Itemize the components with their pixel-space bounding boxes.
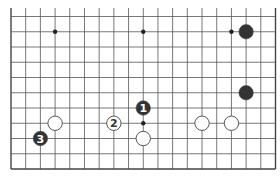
stone-disc (48, 116, 62, 130)
black-stone-3: 3 (33, 131, 47, 145)
black-stone-1: 1 (136, 101, 150, 115)
white-stone (48, 116, 62, 130)
stone-disc (195, 116, 209, 130)
black-stone (239, 25, 253, 39)
stone-disc (239, 86, 253, 100)
star-point (141, 30, 145, 34)
move-number: 2 (110, 117, 118, 130)
move-number: 1 (139, 102, 147, 115)
white-stone (195, 116, 209, 130)
go-board-diagram: 123 (0, 0, 280, 179)
white-stone (136, 131, 150, 145)
white-stone (224, 116, 238, 130)
stone-disc (224, 116, 238, 130)
black-stone (239, 86, 253, 100)
star-point (141, 121, 145, 125)
move-number: 3 (37, 133, 45, 146)
star-point (53, 30, 57, 34)
white-stone-2: 2 (107, 116, 121, 130)
star-point (229, 30, 233, 34)
stone-disc (239, 25, 253, 39)
stone-disc (136, 131, 150, 145)
